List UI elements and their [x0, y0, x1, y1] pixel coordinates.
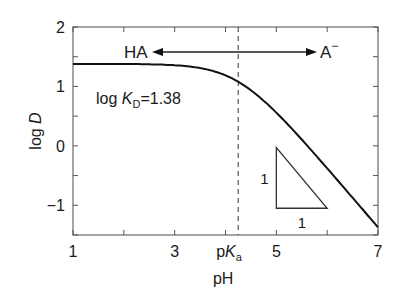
y-tick-label: −1 [47, 197, 65, 214]
y-tick-label: 2 [56, 19, 65, 36]
x-tick-label: 5 [272, 243, 281, 260]
y-label-log: log [27, 124, 44, 150]
kd-subscript: D [132, 98, 140, 110]
pka-tick-label: pKa [216, 243, 243, 263]
log-kd-annotation: log KD=1.38 [96, 90, 181, 110]
x-tick-label: 1 [69, 243, 78, 260]
arrow-left-head-icon [152, 48, 163, 56]
arrow-right-head-icon [306, 48, 317, 56]
a-minus-superscript: − [331, 39, 338, 53]
y-tick-label: 1 [56, 78, 65, 95]
ha-label: HA [124, 43, 148, 62]
y-axis-tick-labels: 210−1 [47, 19, 65, 214]
y-tick-label: 0 [56, 138, 65, 155]
y-axis-label: log D [27, 112, 44, 150]
log-d-vs-ph-chart: 1357 210−1 HA A− log KD=1.38 1 1 pKa pH … [0, 0, 400, 307]
pka-p: p [216, 243, 225, 260]
slope-triangle [276, 148, 327, 209]
plot-frame [73, 27, 378, 235]
pka-subscript: a [236, 251, 243, 263]
kd-value: =1.38 [140, 90, 181, 107]
a-minus-base: A [320, 43, 332, 62]
x-tick-label: 3 [170, 243, 179, 260]
x-axis-ticks [73, 27, 378, 235]
y-label-d: D [27, 112, 44, 124]
x-tick-label: 7 [374, 243, 383, 260]
slope-run-label: 1 [298, 214, 306, 231]
log-d-curve [73, 64, 378, 227]
slope-rise-label: 1 [260, 170, 268, 187]
kd-prefix: log [96, 90, 122, 107]
x-axis-label: pH [213, 270, 233, 287]
a-minus-label: A− [320, 39, 338, 62]
y-axis-ticks [73, 27, 378, 235]
